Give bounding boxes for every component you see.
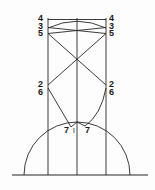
diagram-canvas xyxy=(0,0,155,190)
diagonal-left6-to-bottom7 xyxy=(48,88,71,127)
label-bottom-right-7: 7 xyxy=(85,126,90,135)
label-left-5: 5 xyxy=(38,29,43,38)
label-bottom-center-tick: l xyxy=(73,126,75,135)
label-right-5: 5 xyxy=(109,29,114,38)
label-right-6: 6 xyxy=(109,88,114,97)
diagram-root: 4 3 5 2 6 4 3 5 2 6 7 l 7 xyxy=(0,0,155,190)
curve-right6-to-bottom7 xyxy=(85,88,106,126)
label-left-6: 6 xyxy=(38,88,43,97)
label-bottom-left-7: 7 xyxy=(64,126,69,135)
